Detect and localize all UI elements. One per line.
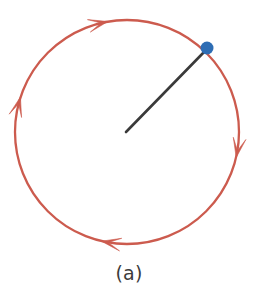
circular-motion-diagram <box>0 0 258 301</box>
radius-vector-line <box>126 50 206 132</box>
direction-arrowheads <box>9 20 246 251</box>
figure-container: (a) <box>0 0 258 301</box>
particle-dot-icon <box>201 42 214 55</box>
figure-caption: (a) <box>0 261 258 285</box>
